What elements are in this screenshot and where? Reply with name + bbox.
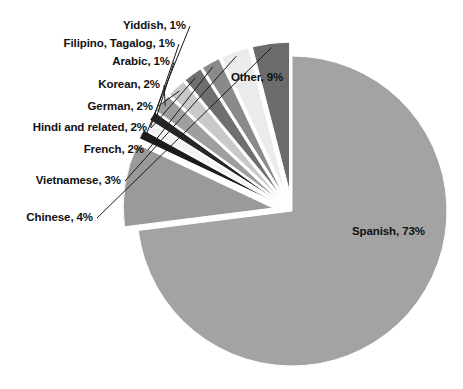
slice-label-german: German, 2%: [88, 100, 153, 113]
slice-label-chinese: Chinese, 4%: [26, 211, 93, 224]
slice-label-korean: Korean, 2%: [98, 78, 160, 91]
slice-label-arabic: Arabic, 1%: [112, 55, 170, 68]
slice-label-other: Other, 9%: [231, 71, 283, 84]
pie-slices-group: [123, 42, 447, 366]
slice-label-yiddish: Yiddish, 1%: [123, 19, 186, 32]
slice-label-vietnamese: Vietnamese, 3%: [36, 174, 121, 187]
pie-chart-svg: [0, 0, 463, 389]
slice-label-spanish: Spanish, 73%: [352, 225, 425, 238]
slice-label-hindi-and-related: Hindi and related, 2%: [33, 121, 147, 134]
slice-label-french: French, 2%: [84, 143, 144, 156]
slice-label-filipino-tagalog: Filipino, Tagalog, 1%: [64, 37, 175, 50]
pie-chart-figure: Spanish, 73% Other, 9% Yiddish, 1% Filip…: [0, 0, 463, 389]
